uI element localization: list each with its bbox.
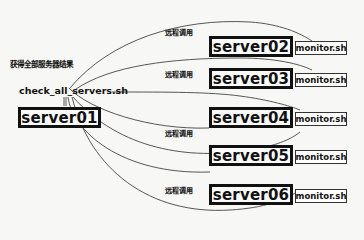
remote-call-label-2: 远程调用 <box>165 69 193 79</box>
server05-monitor-script: monitor.sh <box>295 150 347 164</box>
server04-box: server04 <box>209 107 293 128</box>
server03-monitor-script: monitor.sh <box>295 73 347 87</box>
server05-box: server05 <box>209 145 293 166</box>
remote-call-label-1: 远程调用 <box>165 27 193 37</box>
server03-box: server03 <box>209 68 293 89</box>
result-label: 获得全部服务器结果 <box>10 58 73 69</box>
server02-monitor-script: monitor.sh <box>295 41 347 55</box>
server06-box: server06 <box>209 184 293 205</box>
server06-monitor-script: monitor.sh <box>295 189 347 203</box>
remote-call-label-3: 远程调用 <box>165 128 193 138</box>
server02-box: server02 <box>209 36 293 57</box>
remote-call-label-4: 远程调用 <box>165 185 193 195</box>
check-all-servers-script-label: check_all_servers.sh <box>19 85 128 96</box>
server04-monitor-script: monitor.sh <box>295 112 347 126</box>
server01-box: server01 <box>18 107 101 128</box>
